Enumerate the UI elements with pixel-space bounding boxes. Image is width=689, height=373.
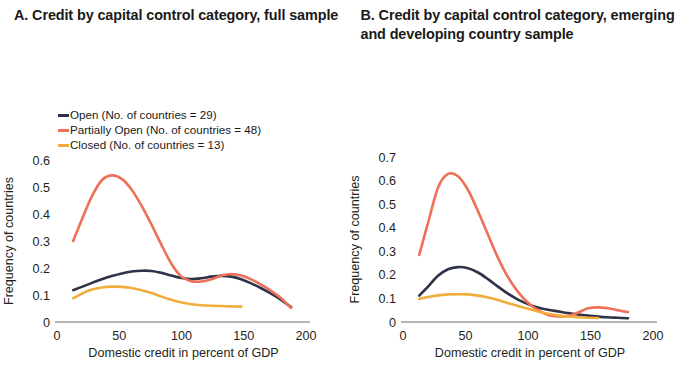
y-tick-label: 0.4 bbox=[378, 221, 396, 235]
panel-a-plot: 00.10.20.30.40.50.6050100150200Domestic … bbox=[0, 0, 345, 373]
y-axis-title: Frequency of countries bbox=[348, 175, 362, 303]
x-axis-title: Domestic credit in percent of GDP bbox=[434, 346, 624, 360]
y-tick-label: 0.2 bbox=[378, 268, 396, 282]
x-tick-label: 50 bbox=[112, 329, 126, 343]
y-tick-label: 0.1 bbox=[378, 292, 396, 306]
x-tick-label: 100 bbox=[171, 329, 192, 343]
y-tick-label: 0.3 bbox=[32, 235, 50, 249]
x-tick-label: 100 bbox=[517, 329, 538, 343]
y-tick-label: 0.4 bbox=[32, 208, 50, 222]
y-tick-label: 0.6 bbox=[32, 154, 50, 168]
y-tick-label: 0.7 bbox=[378, 151, 396, 165]
panel-a: A. Credit by capital control category, f… bbox=[0, 0, 345, 373]
x-tick-label: 0 bbox=[399, 329, 406, 343]
y-tick-label: 0.2 bbox=[32, 262, 50, 276]
figure-two-panel-credit-charts: A. Credit by capital control category, f… bbox=[0, 0, 689, 373]
y-tick-label: 0.3 bbox=[378, 245, 396, 259]
x-tick-label: 200 bbox=[642, 329, 663, 343]
x-tick-label: 0 bbox=[53, 329, 60, 343]
y-axis-title: Frequency of countries bbox=[2, 177, 16, 305]
panel-b-plot: 00.10.20.30.40.50.60.7050100150200Domest… bbox=[345, 0, 689, 373]
y-tick-label: 0 bbox=[43, 316, 50, 330]
y-tick-label: 0.6 bbox=[378, 174, 396, 188]
panel-b: B. Credit by capital control category, e… bbox=[345, 0, 689, 373]
x-tick-label: 150 bbox=[233, 329, 254, 343]
series-line bbox=[419, 267, 628, 318]
series-line bbox=[73, 287, 241, 307]
x-axis-title: Domestic credit in percent of GDP bbox=[88, 346, 278, 360]
x-tick-label: 200 bbox=[295, 329, 316, 343]
y-tick-label: 0.5 bbox=[32, 181, 50, 195]
x-tick-label: 150 bbox=[579, 329, 600, 343]
y-tick-label: 0 bbox=[388, 316, 395, 330]
y-tick-label: 0.5 bbox=[378, 198, 396, 212]
x-tick-label: 50 bbox=[458, 329, 472, 343]
y-tick-label: 0.1 bbox=[32, 289, 50, 303]
